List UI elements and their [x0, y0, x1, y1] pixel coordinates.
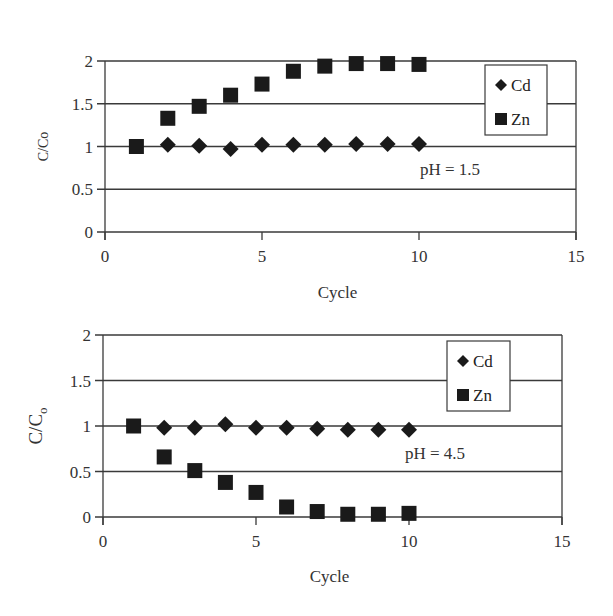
x-axis-title: Cycle	[310, 567, 350, 586]
data-point-zn	[412, 57, 427, 72]
x-tick-label: 5	[258, 247, 267, 266]
data-point-zn	[371, 507, 386, 522]
data-point-cd	[156, 420, 172, 436]
x-axis-title: Cycle	[318, 283, 358, 302]
legend-square-icon	[457, 389, 469, 401]
x-tick-label: 0	[99, 532, 108, 551]
ph-annotation: pH = 4.5	[405, 444, 465, 463]
data-point-zn	[157, 449, 172, 464]
data-point-zn	[317, 59, 332, 74]
legend: CdZn	[447, 341, 510, 411]
data-point-zn	[249, 485, 264, 500]
legend-label-cd: Cd	[511, 76, 531, 95]
x-tick-label: 10	[411, 247, 428, 266]
x-tick-label: 15	[554, 532, 571, 551]
legend-square-icon	[495, 113, 507, 125]
legend: CdZn	[485, 65, 547, 135]
x-tick-label: 0	[101, 247, 110, 266]
y-tick-label: 1.5	[70, 372, 91, 391]
data-point-zn	[126, 419, 141, 434]
data-point-cd	[370, 422, 386, 438]
data-point-zn	[218, 475, 233, 490]
data-point-cd	[309, 421, 325, 437]
data-point-zn	[255, 77, 270, 92]
y-tick-label: 1	[85, 138, 94, 157]
data-point-zn	[192, 99, 207, 114]
data-point-cd	[285, 137, 301, 153]
chart-ph-4-5: 00.511.52051015CycleC/CopH = 4.5CdZn	[25, 326, 571, 586]
data-point-zn	[286, 64, 301, 79]
y-tick-label: 1.5	[72, 95, 93, 114]
data-point-cd	[411, 136, 427, 152]
data-point-cd	[160, 137, 176, 153]
data-point-cd	[217, 416, 233, 432]
data-point-zn	[349, 56, 364, 71]
y-tick-label: 2	[83, 326, 92, 345]
data-point-zn	[187, 463, 202, 478]
data-point-cd	[279, 420, 295, 436]
data-point-zn	[279, 499, 294, 514]
data-point-cd	[254, 137, 270, 153]
y-tick-label: 0.5	[70, 463, 91, 482]
data-point-cd	[348, 136, 364, 152]
data-point-cd	[380, 136, 396, 152]
data-point-cd	[340, 422, 356, 438]
y-tick-label: 0.5	[72, 180, 93, 199]
y-tick-label: 1	[83, 417, 92, 436]
y-axis-title: C/Co	[25, 407, 50, 444]
y-tick-label: 2	[85, 52, 94, 71]
data-point-cd	[248, 420, 264, 436]
data-point-cd	[401, 422, 417, 438]
x-tick-label: 10	[401, 532, 418, 551]
data-point-zn	[380, 56, 395, 71]
legend-label-zn: Zn	[511, 110, 530, 129]
data-point-cd	[223, 141, 239, 157]
data-point-cd	[187, 420, 203, 436]
data-point-cd	[191, 138, 207, 154]
data-point-zn	[223, 88, 238, 103]
data-point-zn	[402, 506, 417, 521]
data-point-zn	[340, 507, 355, 522]
y-tick-label: 0	[85, 223, 94, 242]
ph-annotation: pH = 1.5	[420, 160, 480, 179]
legend-label-zn: Zn	[473, 386, 492, 405]
x-tick-label: 5	[252, 532, 261, 551]
legend-label-cd: Cd	[473, 352, 493, 371]
x-tick-label: 15	[568, 247, 585, 266]
data-point-zn	[129, 139, 144, 154]
chart-ph-1-5: 00.511.52051015CycleC/CopH = 1.5CdZn	[36, 52, 585, 302]
data-point-zn	[160, 111, 175, 126]
data-point-zn	[310, 504, 325, 519]
y-tick-label: 0	[83, 508, 92, 527]
chart-figure: 00.511.52051015CycleC/CopH = 1.5CdZn 00.…	[0, 0, 613, 616]
data-point-cd	[317, 137, 333, 153]
y-axis-title: C/Co	[36, 132, 51, 162]
